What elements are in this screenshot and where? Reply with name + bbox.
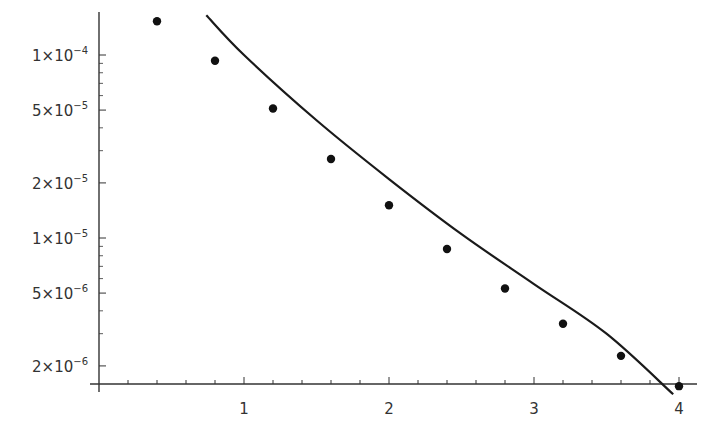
data-points — [153, 17, 683, 390]
data-point — [559, 320, 567, 328]
axes — [90, 12, 697, 392]
y-tick-label: 5×10−5 — [32, 100, 88, 120]
x-tick-label: 2 — [384, 400, 394, 418]
data-point — [443, 245, 451, 253]
y-tick-label: 1×10−5 — [32, 228, 88, 248]
y-tick-label: 2×10−5 — [32, 173, 88, 193]
data-point — [501, 284, 509, 292]
data-point — [675, 382, 683, 390]
data-point — [153, 17, 161, 25]
data-point — [617, 352, 625, 360]
y-tick-label: 2×10−6 — [32, 356, 88, 376]
y-tick-label: 5×10−6 — [32, 283, 88, 303]
x-tick-label: 3 — [529, 400, 539, 418]
data-point — [327, 155, 335, 163]
fit-curve-line — [206, 15, 673, 394]
fit-curve — [206, 15, 673, 394]
log-scale-chart: 12341×10−45×10−52×10−51×10−55×10−62×10−6 — [0, 0, 702, 431]
data-point — [385, 201, 393, 209]
tick-labels: 12341×10−45×10−52×10−51×10−55×10−62×10−6 — [32, 45, 684, 418]
x-tick-label: 1 — [239, 400, 249, 418]
data-point — [269, 104, 277, 112]
data-point — [211, 57, 219, 65]
y-tick-label: 1×10−4 — [32, 45, 88, 65]
x-tick-label: 4 — [674, 400, 684, 418]
